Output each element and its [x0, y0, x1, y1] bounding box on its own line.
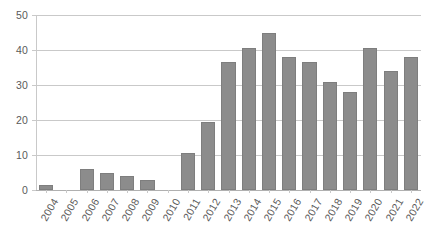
bar [404, 57, 418, 190]
x-tick-mark [350, 190, 351, 193]
x-tick-label: 2019 [342, 196, 364, 223]
x-tick-mark [249, 190, 250, 193]
x-tick-mark [411, 190, 412, 193]
bar [262, 33, 276, 191]
bar [181, 153, 195, 190]
bar [100, 173, 114, 191]
bar [384, 71, 398, 190]
x-tick-label: 2021 [383, 196, 405, 223]
x-tick-mark [147, 190, 148, 193]
x-tick-label: 2006 [79, 196, 101, 223]
x-axis: 2004200520062007200820092010201120122013… [36, 190, 421, 239]
x-tick-mark [188, 190, 189, 193]
x-tick-label: 2018 [322, 196, 344, 223]
x-tick-label: 2004 [38, 196, 60, 223]
x-tick-mark [229, 190, 230, 193]
y-tick-label: 20 [16, 114, 28, 126]
bar [363, 48, 377, 190]
x-tick-label: 2022 [403, 196, 425, 223]
bar [242, 48, 256, 190]
y-tick-label: 10 [16, 149, 28, 161]
x-tick-mark [289, 190, 290, 193]
x-tick-label: 2008 [119, 196, 141, 223]
x-tick-label: 2012 [200, 196, 222, 223]
bar [201, 122, 215, 190]
y-axis: 01020304050 [0, 0, 36, 239]
bar [120, 176, 134, 190]
x-tick-mark [107, 190, 108, 193]
x-tick-label: 2015 [261, 196, 283, 223]
x-tick-mark [87, 190, 88, 193]
y-tick-label: 50 [16, 9, 28, 21]
bar-chart: 01020304050 2004200520062007200820092010… [0, 0, 439, 239]
x-tick-mark [391, 190, 392, 193]
x-tick-label: 2011 [180, 196, 202, 222]
x-tick-mark [310, 190, 311, 193]
y-tick-label: 40 [16, 44, 28, 56]
x-tick-label: 2010 [160, 196, 182, 223]
bar [323, 82, 337, 191]
y-tick-label: 30 [16, 79, 28, 91]
bar [343, 92, 357, 190]
x-tick-mark [370, 190, 371, 193]
x-tick-mark [168, 190, 169, 193]
x-tick-label: 2020 [362, 196, 384, 223]
x-tick-label: 2009 [139, 196, 161, 223]
x-tick-mark [127, 190, 128, 193]
x-tick-label: 2014 [241, 196, 263, 223]
bar [302, 62, 316, 190]
x-tick-mark [330, 190, 331, 193]
x-tick-label: 2016 [281, 196, 303, 223]
x-tick-mark [269, 190, 270, 193]
x-tick-mark [66, 190, 67, 193]
bar [221, 62, 235, 190]
plot-area [36, 15, 421, 190]
y-tick-label: 0 [22, 184, 28, 196]
x-tick-mark [208, 190, 209, 193]
x-tick-label: 2005 [58, 196, 80, 223]
bar [282, 57, 296, 190]
bar [140, 180, 154, 191]
x-tick-mark [46, 190, 47, 193]
x-tick-label: 2013 [220, 196, 242, 223]
x-tick-label: 2017 [301, 196, 323, 223]
bar-series [36, 15, 421, 190]
x-tick-label: 2007 [99, 196, 121, 223]
bar [80, 169, 94, 190]
